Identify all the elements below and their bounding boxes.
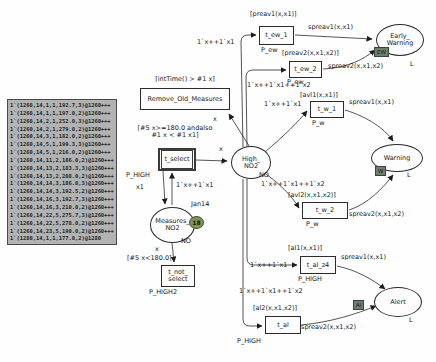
arc-t-w-1-to-warning bbox=[345, 110, 393, 141]
transition-t-ew-1: t_ew_1 bbox=[259, 26, 294, 45]
guard-t-ew-2: [preav2(x,x1,x2)] bbox=[282, 50, 339, 57]
colorset-measures-no2: NO bbox=[181, 238, 191, 245]
arc-t-al-z4-to-alert bbox=[337, 266, 385, 289]
page-tag-t-al: P_HIGH bbox=[237, 338, 261, 345]
page-tag-t-w-1: P_w bbox=[312, 120, 325, 127]
token-multiset-box: 1`(1260,14,1,1,192.7,3)@1260+++1`(1260,1… bbox=[7, 99, 117, 245]
page-tag-t-w-2: P_w bbox=[306, 221, 319, 228]
token-multiset-line: 1`(1260,14,3,1,182.0,2)@1260+++ bbox=[10, 133, 114, 141]
arc-label-x-remove: x bbox=[213, 116, 217, 123]
fusion-tag-early-warning: EW bbox=[374, 47, 389, 57]
guard-t-ew-1: [preav1(x,x1)] bbox=[250, 11, 297, 18]
token-multiset-line: 1`(1260,14,14,3,186.0,3)@1260+++ bbox=[10, 180, 114, 188]
token-multiset-line: 1`(1260,14,5,1,199.3,3)@1260+++ bbox=[10, 141, 114, 149]
token-multiset-line: 1`(1260,14,1,1,197.0,2)@1260+++ bbox=[10, 110, 114, 118]
guard-t-al-z4: [al1(x,x1)] bbox=[288, 245, 322, 252]
arc-label-high-ew2: 1`x++1`x1++1`x2 bbox=[247, 82, 311, 89]
transition-t-w-2: t_w_2 bbox=[302, 202, 348, 219]
guard-t-not-select: [#5 x<180.0] bbox=[127, 255, 172, 262]
token-multiset-line: 1`(1260,14,22,5,275.7,3)@1260+++ bbox=[10, 212, 114, 220]
token-multiset-line: 1`(1260,14,14,3,192.5,2)@1260+++ bbox=[10, 188, 114, 196]
petri-net-diagram: 1`(1260,14,1,1,192.7,3)@1260+++1`(1260,1… bbox=[0, 0, 436, 362]
arc-t-w-2-to-warning bbox=[349, 175, 393, 210]
token-multiset-line: 1`(1260,14,22,5,278.0,2)@1260+++ bbox=[10, 220, 114, 228]
colorset-high-no2: NO bbox=[259, 172, 269, 179]
transition-t-al-z4: t_al_z4 bbox=[300, 256, 336, 274]
arc-label-high-ew1: 1`x++1`x1 bbox=[197, 39, 235, 46]
arc-label-high-al: 1`x++1`x1++1`x2 bbox=[239, 288, 303, 295]
marking-count-badge: 18 bbox=[189, 216, 204, 229]
token-multiset-line: 1`(1260,14,1,1,192.7,3)@1260+++ bbox=[10, 102, 114, 110]
token-multiset-line: 1`(1280,14,1,1,177.0,2)@1280 bbox=[10, 235, 114, 243]
arc-label-x-select-high: x bbox=[219, 146, 223, 153]
colorset-warning: L bbox=[407, 172, 411, 179]
transition-t-ew-2: t_ew_2 bbox=[289, 61, 322, 78]
place-alert: Alert bbox=[374, 287, 422, 317]
token-multiset-line: 1`(1260,14,2,1,279.0,2)@1260+++ bbox=[10, 126, 114, 134]
arc-label-high-w1: 1`x++1`x1 bbox=[264, 101, 302, 108]
arc-label-spreav2-al: spreav2(x,x1,x2) bbox=[301, 324, 356, 331]
arc-label-high-alz4: 1`x++1`x1 bbox=[250, 262, 288, 269]
transition-remove-old-measures: Remove_Old_Measures bbox=[140, 88, 230, 110]
guard-t-select: [#5 x>=180.0 andalso #1 x < #1 x1] bbox=[122, 125, 228, 139]
token-multiset-line: 1`(1260,14,23,5,190.0,2)@1260+++ bbox=[10, 228, 114, 236]
token-multiset-line: 1`(1260,14,16,3,192.7,3)@1260+++ bbox=[10, 196, 114, 204]
transition-t-al: t_al bbox=[265, 316, 301, 334]
arc-label-high-w2: 1`x++1`x1++1`x2 bbox=[261, 181, 325, 188]
arc-label-spreav2-w: spreav2(x,x1,x2) bbox=[349, 211, 404, 218]
transition-t-select-label: t_select bbox=[161, 150, 193, 169]
token-multiset-line: 1`(1260,14,5,1,216.0,2)@1260+++ bbox=[10, 149, 114, 157]
arc-label-spreav2-ew: spreav2(x,x1,x2) bbox=[328, 63, 383, 70]
guard-remove-old-measures: [intTime() > #1 x] bbox=[137, 76, 233, 83]
token-multiset-line: 1`(1260,14,11,2,186.0,2)@1260+++ bbox=[10, 157, 114, 165]
page-tag-t-ew-1: P_ew bbox=[261, 47, 278, 54]
token-multiset-line: 1`(1260,14,13,2,183.3,3)@1260+++ bbox=[10, 165, 114, 173]
arc-label-spreav1-ew: spreav1(x,x1) bbox=[308, 24, 353, 31]
arc-label-spreav1-al: spreav1(x,x1) bbox=[341, 254, 386, 261]
arc-high-to-t-w-1 bbox=[265, 111, 307, 152]
arc-measures-to-t-not-select bbox=[172, 243, 174, 262]
transition-t-not-select: t_not_ select bbox=[161, 265, 195, 287]
transition-t-w-1: t_w_1 bbox=[310, 101, 344, 118]
arc-label-spreav1-w: spreav1(x,x1) bbox=[349, 99, 394, 106]
arc-label-measures-select: 1`x++1`x1 bbox=[176, 182, 214, 189]
token-multiset-line: 1`(1260,14,13,2,208.0,2)@1260+++ bbox=[10, 173, 114, 181]
arc-label-x-not-select: x bbox=[155, 246, 159, 253]
arc-t-select-to-measures bbox=[163, 171, 165, 204]
colorset-alert: L bbox=[409, 317, 413, 324]
arc-high-to-t-ew-1 bbox=[241, 35, 256, 147]
clock-label: Jan14 bbox=[191, 201, 209, 208]
arc-t-select-to-high-no2 bbox=[196, 160, 227, 161]
guard-t-w-1: [avl1(x,x1)] bbox=[300, 92, 338, 99]
arc-t-ew-1-to-early-warning bbox=[295, 35, 372, 39]
page-tag-t-select: P_HIGH bbox=[126, 172, 150, 179]
fusion-tag-alert: Al bbox=[353, 300, 364, 310]
transition-t-select: t_select bbox=[158, 148, 196, 171]
token-multiset-line: 1`(1260,14,2,1,252.0,3)@1260+++ bbox=[10, 118, 114, 126]
fusion-tag-warning: W bbox=[375, 166, 386, 176]
arc-to-remove-old-measures bbox=[229, 114, 251, 149]
guard-t-al: [al2(x,x1,x2)] bbox=[253, 305, 297, 312]
page-tag-t-not-select: P_HIGH2 bbox=[149, 289, 177, 296]
token-multiset-line: 1`(1260,14,16,3,210.0,2)@1260+++ bbox=[10, 204, 114, 212]
colorset-early-warning: L bbox=[410, 61, 414, 68]
page-tag-t-al-z4: P_HIGH bbox=[298, 276, 322, 283]
arc-label-x1: x1 bbox=[136, 184, 144, 191]
guard-t-w-2: [avl2(x,x1,x2)] bbox=[288, 192, 336, 199]
